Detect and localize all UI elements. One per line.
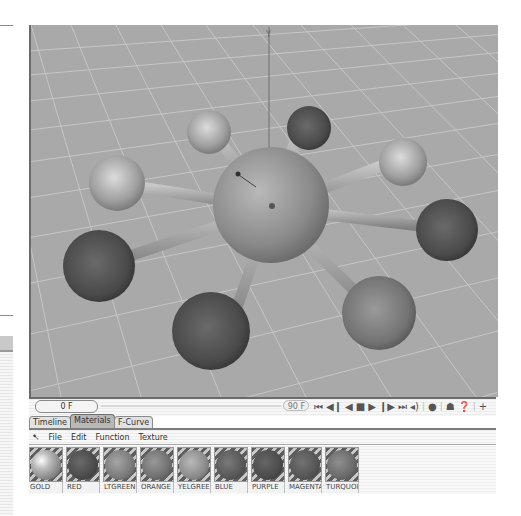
material-label: LTGREEN bbox=[103, 482, 137, 493]
menu-edit[interactable]: Edit bbox=[71, 433, 87, 442]
go-to-end-icon[interactable]: ⏭ bbox=[398, 399, 407, 414]
material-orange[interactable]: ORANGE bbox=[140, 447, 174, 493]
go-to-start-icon[interactable]: ⏮ bbox=[314, 399, 323, 414]
render-helmet-icon[interactable]: ☗ bbox=[446, 399, 455, 414]
play-backward-icon[interactable]: ◀ bbox=[345, 399, 353, 414]
material-blue[interactable]: BLUE bbox=[214, 447, 248, 493]
material-ltgreen[interactable]: LTGREEN bbox=[103, 447, 137, 493]
material-label: ORANGE bbox=[140, 482, 174, 493]
material-gold[interactable]: GOLD bbox=[29, 447, 63, 493]
molecule-scene: Y bbox=[31, 25, 498, 397]
separator: | bbox=[422, 399, 425, 414]
separator: | bbox=[473, 399, 476, 414]
menu-file[interactable]: File bbox=[49, 433, 62, 442]
atom-bottom-right[interactable] bbox=[342, 276, 416, 350]
material-swatch bbox=[140, 447, 174, 482]
timeline-slider[interactable] bbox=[101, 405, 281, 407]
material-red[interactable]: RED bbox=[66, 447, 100, 493]
material-label: MAGENTA bbox=[288, 482, 322, 493]
left-panel-divider-top bbox=[0, 25, 13, 26]
stop-icon[interactable]: ■ bbox=[356, 399, 365, 414]
atom-top-right[interactable] bbox=[287, 106, 331, 150]
material-label: TURQUOI bbox=[325, 482, 359, 493]
atom-bottom[interactable] bbox=[172, 292, 250, 370]
material-swatch bbox=[103, 447, 137, 482]
separator: | bbox=[440, 399, 443, 414]
y-axis-label: Y bbox=[265, 30, 271, 39]
left-panel-header bbox=[0, 336, 13, 352]
play-forward-icon[interactable]: ▶ bbox=[368, 399, 376, 414]
add-icon[interactable]: + bbox=[479, 399, 487, 414]
3d-viewport[interactable]: Y bbox=[29, 25, 498, 397]
atom-left-upper[interactable] bbox=[89, 155, 145, 211]
tab-materials[interactable]: Materials bbox=[70, 414, 115, 428]
current-frame-field[interactable]: 0 F bbox=[35, 400, 98, 413]
material-magenta[interactable]: MAGENTA bbox=[288, 447, 322, 493]
material-swatch bbox=[214, 447, 248, 482]
material-purple[interactable]: PURPLE bbox=[251, 447, 285, 493]
playback-controls: ⏮ ◀❙ ◀ ■ ▶ ❙▶ ⏭ ◂) | ● | ☗ ❓ | + bbox=[314, 399, 487, 414]
tab-f-curve[interactable]: F-Curve bbox=[114, 416, 153, 428]
menu-function[interactable]: Function bbox=[95, 433, 129, 442]
sound-icon[interactable]: ◂) bbox=[410, 399, 419, 414]
menu-texture[interactable]: Texture bbox=[138, 433, 167, 442]
atom-right[interactable] bbox=[416, 199, 478, 261]
material-swatch bbox=[251, 447, 285, 482]
atom-right-upper[interactable] bbox=[379, 138, 427, 186]
atom-top-left[interactable] bbox=[187, 110, 231, 154]
material-swatch bbox=[66, 447, 100, 482]
end-frame-field[interactable]: 90 F bbox=[283, 400, 309, 411]
material-label: BLUE bbox=[214, 482, 248, 493]
material-turquoi[interactable]: TURQUOI bbox=[325, 447, 359, 493]
material-swatch bbox=[325, 447, 359, 482]
material-label: RED bbox=[66, 482, 100, 493]
arrow-pointer-icon[interactable]: ➷ bbox=[32, 432, 40, 442]
step-back-icon[interactable]: ◀❙ bbox=[326, 399, 342, 414]
material-swatch bbox=[177, 447, 211, 482]
tab-timeline[interactable]: Timeline bbox=[29, 416, 71, 428]
left-side-panel bbox=[0, 336, 13, 516]
atom-left-lower[interactable] bbox=[63, 230, 135, 302]
record-icon[interactable]: ● bbox=[428, 399, 437, 414]
material-swatch bbox=[29, 447, 63, 482]
materials-menu-bar: ➷ File Edit Function Texture bbox=[29, 430, 496, 445]
material-label: PURPLE bbox=[251, 482, 285, 493]
panel-tabs: Timeline Materials F-Curve bbox=[29, 415, 496, 430]
material-swatch bbox=[288, 447, 322, 482]
left-panel-divider-mid bbox=[0, 315, 13, 316]
material-yelgree[interactable]: YELGREE bbox=[177, 447, 211, 493]
help-icon[interactable]: ❓ bbox=[458, 399, 470, 414]
materials-list: GOLD RED LTGREEN ORANGE YELGREE BLUE PUR… bbox=[29, 446, 496, 494]
material-label: YELGREE bbox=[177, 482, 211, 493]
step-forward-icon[interactable]: ❙▶ bbox=[379, 399, 395, 414]
material-label: GOLD bbox=[29, 482, 63, 493]
